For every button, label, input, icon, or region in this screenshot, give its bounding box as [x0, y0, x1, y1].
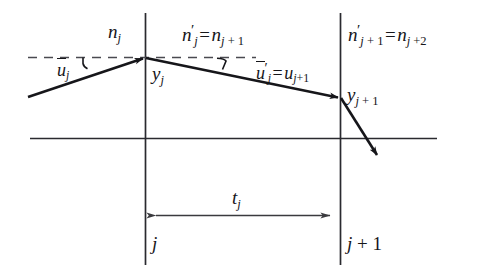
label-index-n-prime-j: n′j=nj + 1 — [182, 22, 244, 47]
ray-transfer-figure: nj n′j=nj + 1 n′j + 1=nj +2 uj yj u′j=uj… — [0, 0, 484, 272]
label-angle-u-bar-prime-j: u′j=uj+1 — [256, 61, 309, 85]
label-angle-u-bar-j: uj — [57, 61, 69, 82]
angle-arc-outgoing — [217, 58, 226, 69]
incoming-ray — [28, 59, 143, 98]
label-surface-j: j — [152, 234, 157, 253]
label-height-y-j: yj — [152, 64, 164, 86]
label-thickness-t-j: tj — [232, 188, 241, 210]
label-index-n-j: nj — [108, 22, 121, 44]
middle-ray — [146, 58, 338, 98]
angle-arc-incoming — [83, 58, 88, 69]
label-height-y-j-plus-1: yj + 1 — [347, 85, 379, 107]
label-surface-j-plus-1: j + 1 — [347, 234, 382, 253]
label-index-n-prime-j-plus-1: n′j + 1=nj +2 — [348, 22, 427, 47]
